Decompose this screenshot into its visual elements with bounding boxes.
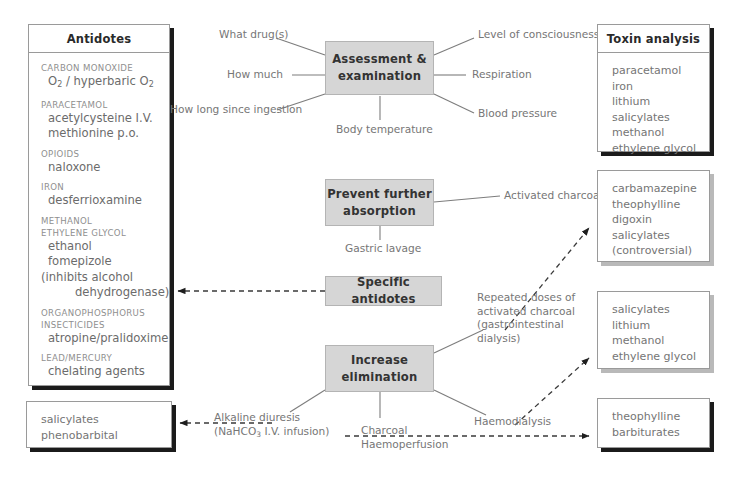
note-body-temperature: Body temperature [336, 123, 433, 137]
note-activated-charcoal: Activated charcoal [504, 189, 602, 203]
process-box-specific-antidotes-label: Specific antidotes [326, 274, 441, 308]
antidote-drug: ethanol [41, 239, 169, 255]
note-charcoal-haemoperfusion: Charcoal Haemoperfusion [361, 424, 448, 451]
antidote-category: CARBON MONOXIDE [41, 62, 169, 74]
note-repeated-charcoal-line-1: Repeated doses of [477, 291, 575, 305]
list-item: ethylene glycol [612, 141, 709, 157]
toxin-analysis-panel: Toxin analysis paracetamolironlithiumsal… [597, 24, 710, 152]
note-alkaline-diuresis-line-1: Alkaline diuresis [214, 411, 329, 425]
note-respiration: Respiration [472, 68, 532, 82]
process-box-prevent-absorption-label: Prevent furtherabsorption [327, 186, 432, 220]
note-how-long-since-ingestion: How long since ingestion [170, 103, 302, 117]
list-item: theophylline [612, 409, 709, 425]
antidote-category: OPIOIDS [41, 148, 169, 160]
toxin-analysis-list: paracetamolironlithiumsalicylatesmethano… [598, 53, 709, 164]
antidote-drug: acetylcysteine I.V. [41, 111, 169, 127]
alkaline-diuresis-indications-list: salicylatesphenobarbital [27, 402, 171, 451]
note-repeated-charcoal-line-3: (gastrointestinal [477, 318, 575, 332]
antidote-category: PARACETAMOL [41, 99, 169, 111]
line-alkaline-diuresis [290, 390, 325, 412]
list-item: carbamazepine [612, 181, 709, 197]
antidote-category: LEAD/MERCURY [41, 352, 169, 364]
charcoal-indications-list: carbamazepinetheophyllinedigoxinsalicyla… [598, 171, 709, 267]
antidote-category: IRON [41, 181, 169, 193]
antidote-drug: O2 / hyperbaric O2 [41, 74, 169, 93]
antidote-drug: (inhibits alcohol [41, 270, 169, 286]
note-charcoal-haemoperfusion-line-2: Haemoperfusion [361, 438, 448, 452]
list-item: paracetamol [612, 63, 709, 79]
note-alkaline-diuresis: Alkaline diuresis (NaHCO3 I.V. infusion) [214, 411, 329, 441]
note-what-drugs: What drug(s) [219, 28, 289, 42]
process-box-specific-antidotes[interactable]: Specific antidotes [325, 276, 442, 306]
antidote-category: METHANOL [41, 215, 169, 227]
poisoning-management-diagram: Antidotes CARBON MONOXIDEO2 / hyperbaric… [0, 0, 735, 479]
haemoperfusion-indications-list: theophyllinebarbiturates [598, 399, 709, 448]
list-item: salicylates [612, 110, 709, 126]
line-haemodialysis [434, 390, 486, 415]
note-alkaline-diuresis-line-2: (NaHCO3 I.V. infusion) [214, 425, 329, 442]
process-box-assessment-label: Assessment &examination [332, 51, 427, 85]
list-item: ethylene glycol [612, 349, 709, 365]
alkaline-diuresis-indications-panel: salicylatesphenobarbital [26, 401, 172, 448]
line-bloodpressure [434, 94, 474, 113]
note-how-much: How much [227, 68, 283, 82]
antidote-drug: chelating agents [41, 364, 169, 380]
process-box-assessment[interactable]: Assessment &examination [325, 41, 434, 95]
note-level-of-consciousness: Level of consciousness [478, 28, 599, 42]
charcoal-indications-panel: carbamazepinetheophyllinedigoxinsalicyla… [597, 170, 710, 262]
line-consciousness [434, 38, 474, 55]
antidote-category: ORGANOPHOSPHORUS [41, 307, 169, 319]
list-item: methanol [612, 125, 709, 141]
list-item: salicylates [612, 228, 709, 244]
antidotes-panel-title: Antidotes [29, 25, 169, 53]
list-item: lithium [612, 318, 709, 334]
list-item: salicylates [612, 302, 709, 318]
antidote-category: ETHYLENE GLYCOL [41, 227, 169, 239]
antidote-drug: fomepizole [41, 254, 169, 270]
list-item: salicylates [41, 412, 171, 428]
list-item: digoxin [612, 212, 709, 228]
haemoperfusion-indications-panel: theophyllinebarbiturates [597, 398, 710, 448]
note-repeated-charcoal: Repeated doses of activated charcoal (ga… [477, 291, 575, 345]
antidote-drug: dehydrogenase) [41, 285, 169, 301]
list-item: lithium [612, 94, 709, 110]
note-gastric-lavage: Gastric lavage [345, 242, 421, 256]
process-box-prevent-absorption[interactable]: Prevent furtherabsorption [325, 179, 434, 226]
line-repeated-charcoal [434, 330, 483, 353]
antidote-drug: atropine/pralidoxime [41, 331, 169, 347]
note-blood-pressure: Blood pressure [478, 107, 557, 121]
note-haemodialysis: Haemodialysis [474, 415, 551, 429]
list-item: iron [612, 79, 709, 95]
process-box-increase-elimination[interactable]: Increaseelimination [325, 345, 434, 392]
list-item: methanol [612, 333, 709, 349]
haemodialysis-indications-panel: salicylateslithiummethanolethylene glyco… [597, 291, 710, 369]
antidote-drug: desferrioxamine [41, 193, 169, 209]
process-box-increase-elimination-label: Increaseelimination [342, 352, 418, 386]
note-charcoal-haemoperfusion-line-1: Charcoal [361, 424, 448, 438]
antidote-drug: methionine p.o. [41, 126, 169, 142]
list-item: (controversial) [612, 243, 709, 259]
list-item: barbiturates [612, 425, 709, 441]
note-repeated-charcoal-line-4: dialysis) [477, 332, 575, 346]
antidotes-panel: Antidotes CARBON MONOXIDEO2 / hyperbaric… [28, 24, 170, 386]
toxin-analysis-panel-title: Toxin analysis [598, 25, 709, 53]
note-repeated-charcoal-line-2: activated charcoal [477, 305, 575, 319]
antidotes-list: CARBON MONOXIDEO2 / hyperbaric O2PARACET… [29, 53, 169, 388]
list-item: theophylline [612, 197, 709, 213]
antidote-drug: naloxone [41, 160, 169, 176]
haemodialysis-indications-list: salicylateslithiummethanolethylene glyco… [598, 292, 709, 372]
antidote-category: INSECTICIDES [41, 319, 169, 331]
list-item: phenobarbital [41, 428, 171, 444]
line-activated-charcoal [434, 196, 500, 202]
